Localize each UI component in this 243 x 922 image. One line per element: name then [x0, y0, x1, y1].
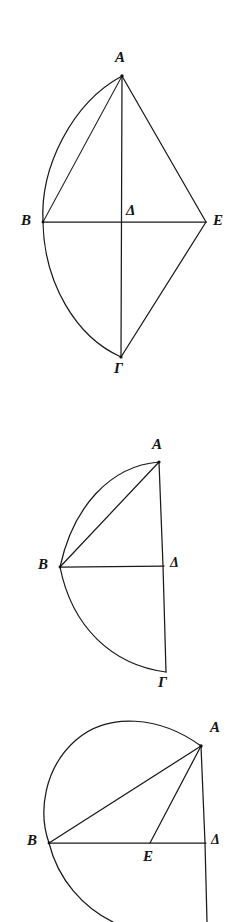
- figure-2-line-b-a: [60, 462, 159, 567]
- figure-1-line-a-gamma: [121, 76, 122, 357]
- figure-2-label-delta: Δ: [170, 556, 179, 570]
- geometry-drawing: [0, 0, 243, 922]
- figure-2-vertex-b: [59, 566, 62, 569]
- figure-1-chord-b-a: [43, 76, 122, 222]
- figure-2-label-gamma: Γ: [158, 675, 167, 690]
- figure-1-line-a-e: [122, 76, 206, 222]
- figure-3-label-b: B: [27, 833, 37, 848]
- figure-1-vertex-gamma: [119, 355, 122, 358]
- figure-1-arc-b-gamma: [43, 222, 121, 357]
- figure-3-arc-main: [44, 721, 201, 922]
- figure-3-label-e: E: [143, 849, 153, 864]
- figure-1-label-e: E: [213, 213, 223, 228]
- figure-1-label-gamma: Γ: [114, 361, 123, 376]
- figure-2-label-a: A: [152, 437, 162, 452]
- figure-1-vertex-b: [42, 221, 45, 224]
- figure-3-line-b-a: [49, 746, 201, 843]
- figure-2-label-b: B: [38, 557, 48, 572]
- figure-1-label-delta: Δ: [126, 203, 135, 218]
- figure-plate: A B Δ E Γ A B Δ Γ A B E Δ: [0, 0, 243, 922]
- figure-2-line-b-delta: [60, 566, 164, 567]
- figure-3-label-delta: Δ: [211, 833, 220, 847]
- figure-1-group: [42, 74, 206, 358]
- figure-3-line-a-e: [150, 746, 201, 843]
- figure-2-vertex-a: [157, 460, 160, 463]
- figure-2-group: [59, 460, 166, 672]
- figure-1-label-a: A: [115, 50, 125, 65]
- figure-3-line-a-delta: [201, 746, 207, 922]
- figure-1-line-e-gamma: [121, 222, 206, 357]
- figure-1-label-b: B: [21, 213, 31, 228]
- figure-3-group: [44, 721, 207, 922]
- figure-2-line-a-gamma: [159, 462, 166, 672]
- figure-1-vertex-a: [120, 74, 123, 77]
- figure-3-vertex-b: [48, 842, 51, 845]
- figure-3-vertex-a: [199, 744, 202, 747]
- figure-3-label-a: A: [210, 720, 220, 735]
